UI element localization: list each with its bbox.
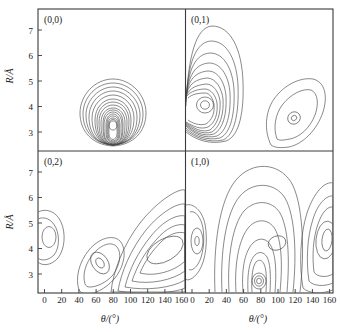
y-tick-label: 7	[29, 168, 34, 178]
panel-label-0-1: (0,1)	[191, 15, 209, 26]
x-ticks-left: 0 20 40 60 80 100 120 140 160	[42, 289, 189, 305]
contour-figure: 7 6 5 4 3 7 6 5 4 3 R/Å R/Å 0 20 40 60 8…	[0, 0, 341, 332]
x-tick-label: 20	[205, 295, 215, 305]
y-tick-label: 4	[29, 244, 34, 254]
contours-panel-0-2	[38, 190, 188, 294]
panel-label-1-0: (1,0)	[191, 157, 209, 168]
contours-panel-1-0	[186, 166, 338, 292]
x-tick-label: 40	[222, 295, 232, 305]
contours-panel-0-0	[80, 79, 146, 146]
panel-label-0-2: (0,2)	[44, 157, 62, 168]
x-tick-label: 0	[42, 295, 47, 305]
y-ticks-top: 7 6 5 4 3	[29, 26, 43, 138]
x-tick-label: 120	[141, 295, 155, 305]
x-tick-label: 100	[271, 295, 285, 305]
x-tick-label: 160	[323, 295, 337, 305]
x-tick-label: 100	[124, 295, 138, 305]
x-tick-label: 80	[256, 295, 266, 305]
x-tick-label: 60	[92, 295, 102, 305]
y-tick-label: 3	[29, 270, 34, 280]
x-ticks-right: 0 20 40 60 80 100 120 140 160	[190, 289, 337, 305]
y-axis-title-top: R/Å	[4, 68, 15, 85]
panel-label-0-0: (0,0)	[44, 15, 62, 26]
y-tick-label: 6	[29, 193, 34, 203]
x-tick-label: 0	[190, 295, 195, 305]
y-ticks-bottom: 7 6 5 4 3	[29, 168, 43, 280]
y-tick-label: 4	[29, 102, 34, 112]
contours-panel-0-1	[186, 26, 325, 148]
x-tick-label: 40	[74, 295, 84, 305]
x-axis-title-left: θ/(°)	[101, 313, 120, 325]
x-tick-label: 60	[239, 295, 249, 305]
y-tick-label: 5	[29, 77, 34, 87]
y-tick-label: 7	[29, 26, 34, 36]
x-tick-label: 120	[288, 295, 302, 305]
y-tick-label: 3	[29, 128, 34, 138]
x-tick-label: 160	[175, 295, 189, 305]
y-tick-label: 5	[29, 219, 34, 229]
y-axis-title-bottom: R/Å	[4, 214, 15, 231]
y-tick-label: 6	[29, 51, 34, 61]
x-tick-label: 20	[57, 295, 67, 305]
x-axis-title-right: θ/(°)	[249, 313, 268, 325]
figure-svg: 7 6 5 4 3 7 6 5 4 3 R/Å R/Å 0 20 40 60 8…	[0, 0, 341, 332]
x-tick-label: 140	[306, 295, 320, 305]
x-tick-label: 140	[158, 295, 172, 305]
x-tick-label: 80	[109, 295, 119, 305]
